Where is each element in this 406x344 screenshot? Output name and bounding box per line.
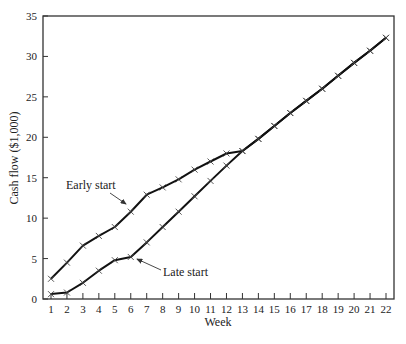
x-tick-label: 21 — [365, 303, 376, 315]
y-tick-label: 5 — [32, 253, 38, 265]
data-point-marker — [128, 209, 134, 215]
x-tick-label: 5 — [112, 303, 118, 315]
arrow-icon — [110, 193, 126, 204]
data-point-marker — [176, 209, 182, 215]
data-point-marker — [96, 233, 102, 239]
x-tick-label: 4 — [96, 303, 102, 315]
annotations: Early startLate start — [66, 178, 209, 279]
data-point-marker — [64, 260, 70, 266]
x-tick-label: 1 — [48, 303, 54, 315]
cash-flow-chart: 05101520253035 1234567891011121314151617… — [0, 0, 406, 344]
data-point-marker — [303, 98, 309, 104]
x-tick-label: 15 — [269, 303, 281, 315]
data-point-marker — [351, 60, 357, 66]
data-point-marker — [287, 110, 293, 116]
y-tick-label: 20 — [26, 131, 38, 143]
data-point-marker — [223, 163, 229, 169]
data-point-marker — [383, 35, 389, 41]
data-point-marker — [271, 123, 277, 129]
x-tick-label: 18 — [317, 303, 329, 315]
y-tick-label: 30 — [26, 50, 38, 62]
data-point-marker — [319, 86, 325, 92]
x-tick-label: 8 — [160, 303, 166, 315]
series-layer — [48, 35, 389, 297]
arrow-icon — [137, 259, 161, 270]
x-tick-label: 9 — [176, 303, 182, 315]
annotation-late-start: Late start — [163, 265, 209, 279]
series-early-start — [48, 35, 389, 282]
annotation-early-start: Early start — [66, 178, 116, 192]
data-point-marker — [80, 243, 86, 249]
series-late-start — [48, 35, 389, 297]
y-axis-title: Cash flow ($1,000) — [7, 112, 21, 205]
x-tick-label: 13 — [237, 303, 249, 315]
x-axis: 12345678910111213141516171819202122 — [48, 293, 391, 315]
x-tick-label: 20 — [349, 303, 361, 315]
data-point-marker — [367, 48, 373, 54]
x-tick-label: 7 — [144, 303, 150, 315]
data-point-marker — [48, 276, 54, 282]
x-tick-label: 17 — [301, 303, 313, 315]
x-tick-label: 10 — [189, 303, 201, 315]
data-point-marker — [255, 136, 261, 142]
x-tick-label: 6 — [128, 303, 134, 315]
y-tick-label: 15 — [26, 172, 38, 184]
x-tick-label: 3 — [80, 303, 86, 315]
x-tick-label: 14 — [253, 303, 265, 315]
x-tick-label: 22 — [381, 303, 392, 315]
x-tick-label: 12 — [221, 303, 232, 315]
series-line — [51, 38, 386, 294]
x-tick-label: 11 — [205, 303, 216, 315]
x-tick-label: 2 — [64, 303, 70, 315]
y-axis: 05101520253035 — [26, 10, 48, 305]
data-point-marker — [144, 239, 150, 245]
y-tick-label: 25 — [26, 91, 38, 103]
data-point-marker — [192, 193, 198, 199]
x-tick-label: 19 — [333, 303, 345, 315]
y-tick-label: 0 — [32, 293, 38, 305]
data-point-marker — [96, 268, 102, 274]
x-axis-title: Week — [204, 315, 231, 329]
data-point-marker — [335, 73, 341, 79]
data-point-marker — [208, 178, 214, 184]
data-point-marker — [160, 224, 166, 230]
x-tick-label: 16 — [285, 303, 297, 315]
y-tick-label: 35 — [26, 10, 38, 22]
y-tick-label: 10 — [26, 212, 38, 224]
data-point-marker — [80, 280, 86, 286]
